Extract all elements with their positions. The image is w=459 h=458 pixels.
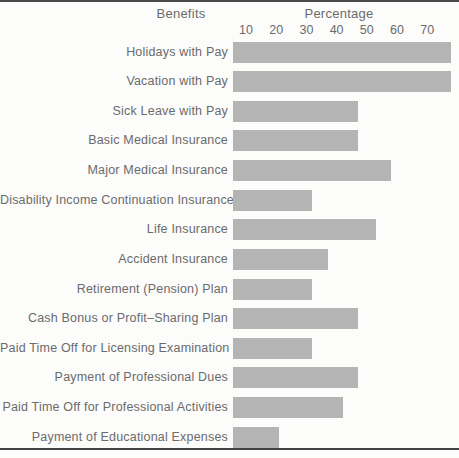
top-rule [0,0,459,2]
benefit-bar [233,279,312,300]
x-tick-label: 30 [299,23,313,37]
table-row: Sick Leave with Pay [0,101,459,131]
benefit-label: Major Medical Insurance [0,160,228,181]
table-row: Basic Medical Insurance [0,130,459,160]
benefit-label: Paid Time Off for Professional Activitie… [0,397,228,418]
x-tick-label: 10 [239,23,253,37]
benefits-bar-chart: Benefits Percentage 10 20 30 40 50 60 70… [0,0,459,458]
benefit-label: Accident Insurance [0,249,228,270]
table-row: Major Medical Insurance [0,160,459,190]
table-row: Accident Insurance [0,249,459,279]
benefit-label: Paid Time Off for Licensing Examination [0,338,228,359]
benefits-column-header: Benefits [116,6,246,21]
benefit-bar [233,338,312,359]
benefit-bar [233,160,391,181]
chart-rows: Holidays with Pay Vacation with Pay Sick… [0,42,459,457]
benefit-bar [233,367,358,388]
table-row: Vacation with Pay [0,71,459,101]
x-tick-label: 60 [390,23,404,37]
x-tick-label: 70 [420,23,434,37]
benefit-label: Sick Leave with Pay [0,101,228,122]
table-row: Paid Time Off for Professional Activitie… [0,397,459,427]
benefit-bar [233,130,358,151]
benefit-bar [233,101,358,122]
benefit-label: Retirement (Pension) Plan [0,279,228,300]
table-row: Disability Income Continuation Insurance [0,190,459,220]
x-tick-label: 50 [360,23,374,37]
benefit-label: Cash Bonus or Profit–Sharing Plan [0,308,228,329]
benefit-bar [233,308,358,329]
benefit-bar [233,71,451,92]
benefit-bar [233,397,343,418]
x-tick-label: 20 [269,23,283,37]
benefit-label: Payment of Educational Expenses [0,427,228,448]
percentage-axis-title: Percentage [274,6,404,21]
table-row: Payment of Educational Expenses [0,427,459,457]
benefit-bar [233,190,312,211]
benefit-label: Disability Income Continuation Insurance [0,190,228,211]
x-tick-label: 40 [330,23,344,37]
table-row: Retirement (Pension) Plan [0,279,459,309]
x-axis-ticks: 10 20 30 40 50 60 70 [233,23,459,38]
benefit-bar [233,427,279,448]
benefit-label: Payment of Professional Dues [0,367,228,388]
table-row: Holidays with Pay [0,42,459,72]
table-row: Payment of Professional Dues [0,367,459,397]
benefit-label: Holidays with Pay [0,42,228,63]
benefit-bar [233,42,451,63]
bottom-rule [0,448,459,450]
benefit-bar [233,249,328,270]
benefit-label: Life Insurance [0,219,228,240]
table-row: Paid Time Off for Licensing Examination [0,338,459,368]
table-row: Cash Bonus or Profit–Sharing Plan [0,308,459,338]
benefit-bar [233,219,376,240]
benefit-label: Vacation with Pay [0,71,228,92]
table-row: Life Insurance [0,219,459,249]
benefit-label: Basic Medical Insurance [0,130,228,151]
